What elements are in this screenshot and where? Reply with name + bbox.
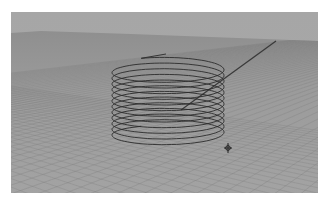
perspective-viewport[interactable]: Perspective viewport	[11, 12, 318, 193]
viewport-scene[interactable]	[11, 12, 318, 193]
screenshot-page: Perspective viewport	[0, 0, 330, 204]
